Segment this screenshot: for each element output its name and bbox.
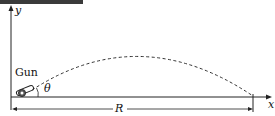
gun-icon xyxy=(16,85,35,97)
y-axis xyxy=(9,5,14,110)
x-axis-label: x xyxy=(268,99,274,110)
range-arrow xyxy=(12,107,253,111)
angle-arc xyxy=(37,88,39,97)
y-axis-label: y xyxy=(15,5,21,16)
angle-label: θ xyxy=(44,83,51,94)
range-label: R xyxy=(115,103,123,114)
trajectory-diagram xyxy=(0,0,275,116)
x-axis xyxy=(11,95,272,100)
trajectory-path xyxy=(32,56,253,96)
gun-label: Gun xyxy=(15,67,38,78)
